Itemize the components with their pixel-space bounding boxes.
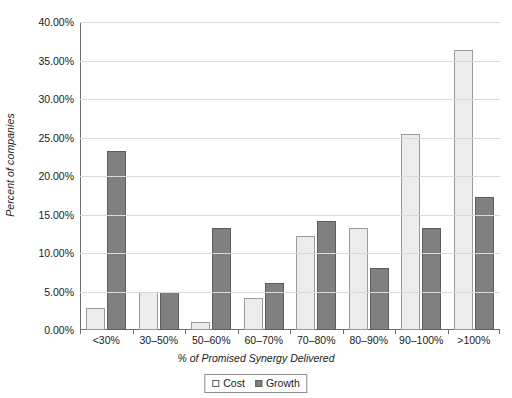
x-axis-tick-labels: <30%30–50%50–60%60–70%70–80%80–90%90–100… [80,334,500,346]
bar-cost[interactable] [191,322,210,330]
legend-item-growth: Growth [255,377,300,389]
bar-cost[interactable] [139,292,158,331]
chart-legend: Cost Growth [204,374,307,393]
legend-swatch-growth-icon [255,380,262,387]
plot-area [80,22,500,330]
y-axis-tick-label: 15.00% [38,209,74,221]
gridline [80,253,500,254]
bar-growth[interactable] [370,268,389,330]
bar-cost[interactable] [244,298,263,330]
y-axis-title: Percent of companies [0,0,20,330]
bar-growth[interactable] [160,292,179,331]
y-axis-tick-label: 40.00% [38,16,74,28]
legend-swatch-cost-icon [212,380,219,387]
bar-cost[interactable] [401,134,420,330]
x-axis-tick-label: 50–60% [185,334,238,346]
legend-label-growth: Growth [266,377,300,389]
bar-chart: Percent of companies 0.00%5.00%10.00%15.… [0,0,512,398]
gridline [80,176,500,177]
x-axis-tick-label: <30% [80,334,133,346]
bar-cost[interactable] [296,236,315,330]
bar-cost[interactable] [349,228,368,330]
legend-label-cost: Cost [223,377,245,389]
y-axis-tick-label: 35.00% [38,55,74,67]
x-axis-tick-label: 30–50% [133,334,186,346]
bar-growth[interactable] [422,228,441,330]
bar-growth[interactable] [317,221,336,330]
x-axis-title: % of Promised Synergy Delivered [0,352,512,364]
bar-cost[interactable] [86,308,105,330]
gridline [80,99,500,100]
bar-growth[interactable] [475,197,494,330]
x-axis-tick-label: 80–90% [343,334,396,346]
bar-growth[interactable] [107,151,126,330]
bar-growth[interactable] [212,228,231,330]
gridline [80,292,500,293]
y-axis-tick-label: 30.00% [38,93,74,105]
y-axis-tick-label: 0.00% [44,324,74,336]
gridline [80,215,500,216]
y-axis-title-label: Percent of companies [4,113,16,217]
bar-cost[interactable] [454,50,473,330]
bar-growth[interactable] [265,283,284,330]
y-axis-tick-label: 25.00% [38,132,74,144]
x-axis-tick-label: 70–80% [290,334,343,346]
x-axis-tick-label: >100% [448,334,501,346]
x-axis-tick-label: 60–70% [238,334,291,346]
y-axis-tick-label: 20.00% [38,170,74,182]
x-axis-tick-label: 90–100% [395,334,448,346]
y-axis-tick-label: 10.00% [38,247,74,259]
legend-item-cost: Cost [212,377,245,389]
gridline [80,22,500,23]
gridline [80,61,500,62]
y-axis-tick-labels: 0.00%5.00%10.00%15.00%20.00%25.00%30.00%… [20,0,78,340]
gridline [80,138,500,139]
y-axis-tick-label: 5.00% [44,286,74,298]
